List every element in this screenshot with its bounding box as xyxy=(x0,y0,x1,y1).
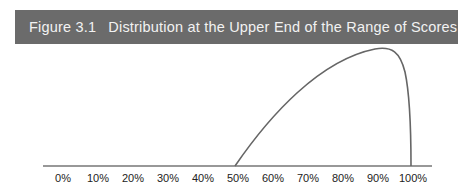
tick-label: 10% xyxy=(87,172,109,184)
tick-label: 60% xyxy=(262,172,284,184)
tick-label: 90% xyxy=(367,172,389,184)
tick-label: 100% xyxy=(399,172,427,184)
x-axis-tick-labels: 0% 10% 20% 30% 40% 50% 60% 70% 80% 90% 1… xyxy=(55,172,427,184)
tick-label: 0% xyxy=(55,172,71,184)
distribution-chart: 0% 10% 20% 30% 40% 50% 60% 70% 80% 90% 1… xyxy=(0,0,473,191)
tick-label: 50% xyxy=(227,172,249,184)
tick-label: 40% xyxy=(192,172,214,184)
distribution-curve xyxy=(235,48,411,166)
tick-label: 70% xyxy=(297,172,319,184)
tick-label: 20% xyxy=(122,172,144,184)
tick-label: 30% xyxy=(157,172,179,184)
tick-label: 80% xyxy=(332,172,354,184)
